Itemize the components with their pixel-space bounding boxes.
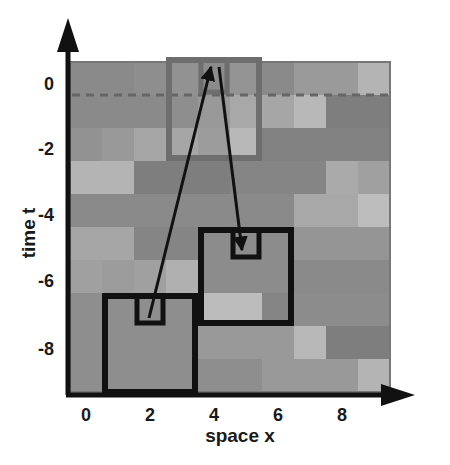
spacetime-diagram: 0 -2 -4 -6 -8 0 2 4 6 8 time t space x [0,0,450,465]
grid-cell [262,326,294,359]
grid-cell [326,227,358,260]
x-tick-2: 2 [135,406,165,424]
grid-cell [262,194,294,227]
grid-cell [294,128,326,161]
plot-canvas [0,0,450,465]
grid-cell [294,161,326,194]
y-tick-0: 0 [14,75,54,93]
grid-cell [294,227,326,260]
grid-cell [70,194,102,227]
grid-cell [262,128,294,161]
x-tick-6: 6 [263,406,293,424]
grid-cell [294,95,326,128]
grid-cell [102,227,134,260]
grid-cell [294,260,326,293]
grid-cell [102,128,134,161]
grid-cell [358,260,390,293]
grid-cell [358,62,390,95]
x-tick-8: 8 [327,406,357,424]
y-tick-neg8: -8 [14,340,54,358]
grid-cell [70,260,102,293]
grid-cell [262,62,294,95]
y-axis-label: time t [18,198,40,268]
grid-cell [166,194,198,227]
grid-cell [326,194,358,227]
grid-cell [134,95,166,128]
grid-cell [166,260,198,293]
grid-cell [134,194,166,227]
grid-cell [358,194,390,227]
grid-cell [102,260,134,293]
y-axis-arrowhead-icon [57,18,79,52]
grid-cell [198,194,230,227]
x-axis-arrowhead-icon [381,384,415,406]
grid-cell [198,326,230,359]
grid-cell [358,326,390,359]
grid-cell [70,359,102,392]
grid-cell [70,293,102,326]
grid-cell [326,161,358,194]
grid-cell [70,227,102,260]
grid-cell [294,359,326,392]
grid-cell [134,359,166,392]
grid-cell [134,62,166,95]
grid-cell [198,161,230,194]
grid-cell [134,161,166,194]
grid-cell [134,128,166,161]
grid-cell [262,161,294,194]
grid-cell [294,293,326,326]
grid-cell [326,326,358,359]
grid-cell [326,128,358,161]
grid-cell [102,62,134,95]
grid-cell [358,128,390,161]
grid-cell [70,326,102,359]
grid-cell [326,359,358,392]
grid-cell [358,227,390,260]
grid-cell [262,359,294,392]
grid-cell [134,326,166,359]
grid-cell [102,194,134,227]
grid-cell [358,293,390,326]
grid-cell [198,359,230,392]
x-tick-4: 4 [199,406,229,424]
grid-cell [326,293,358,326]
grid-cell [326,95,358,128]
grid-cell [70,161,102,194]
grid-cell [294,326,326,359]
grid-cell [134,227,166,260]
grid-cell [70,128,102,161]
y-tick-neg2: -2 [14,140,54,158]
grid-cell [230,326,262,359]
grid-cell [262,95,294,128]
grid-cell [230,359,262,392]
x-tick-0: 0 [71,406,101,424]
grid-cell [358,161,390,194]
grid-cell [70,95,102,128]
grid-cell [102,95,134,128]
grid-cell [326,260,358,293]
grid-cell [102,161,134,194]
x-axis-label: space x [190,425,290,447]
y-tick-neg6: -6 [14,272,54,290]
grid-cell [294,194,326,227]
grid-cell [358,95,390,128]
grid-cell [294,62,326,95]
grid-cell [326,62,358,95]
grid-cell [230,260,262,293]
grid-cell [70,62,102,95]
